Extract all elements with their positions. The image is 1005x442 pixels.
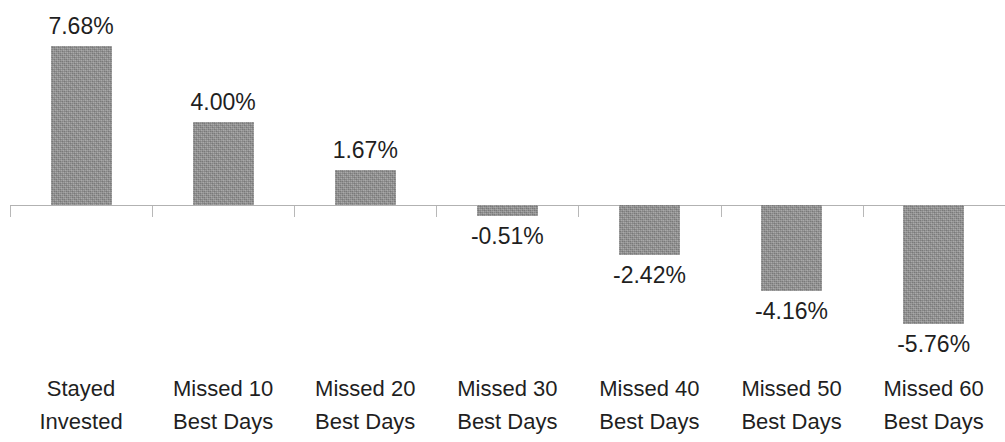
bar[interactable] — [335, 170, 396, 205]
axis-tick — [436, 206, 437, 217]
bar-value-label: 4.00% — [143, 89, 303, 115]
axis-tick — [578, 206, 579, 217]
bar-chart: 7.68%4.00%1.67%-0.51%-2.42%-4.16%-5.76% … — [0, 0, 1005, 442]
axis-tick — [10, 206, 11, 217]
bar[interactable] — [477, 205, 538, 216]
category-label-line2: Best Days — [844, 405, 1005, 438]
axis-tick — [152, 206, 153, 217]
axis-tick — [721, 206, 722, 217]
bar[interactable] — [761, 205, 822, 291]
category-label: Missed 60Best Days — [844, 372, 1005, 438]
bar-value-label: 1.67% — [285, 137, 445, 163]
bar-value-label: 7.68% — [1, 13, 161, 39]
category-label-line1: Missed 60 — [844, 372, 1005, 405]
bar-value-label: -0.51% — [427, 223, 587, 249]
bar[interactable] — [903, 205, 964, 324]
plot-area: 7.68%4.00%1.67%-0.51%-2.42%-4.16%-5.76% — [0, 0, 1005, 375]
bar-value-label: -5.76% — [854, 331, 1005, 357]
bar[interactable] — [619, 205, 680, 255]
axis-tick — [294, 206, 295, 217]
bar[interactable] — [51, 46, 112, 205]
bar-value-label: -4.16% — [712, 298, 872, 324]
axis-tick — [863, 206, 864, 217]
bar-value-label: -2.42% — [569, 262, 729, 288]
bar[interactable] — [193, 122, 254, 205]
